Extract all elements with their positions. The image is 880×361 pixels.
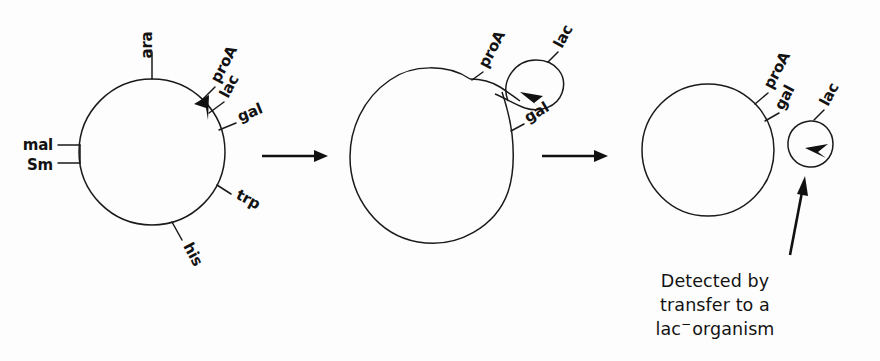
gene-label-mal: mal	[23, 136, 53, 154]
caption-line-1: Detected by	[661, 271, 769, 291]
gene-label-sm: Sm	[27, 156, 53, 174]
tick-gal-2	[511, 124, 524, 131]
tick-lac-3	[814, 110, 824, 120]
caption-minus-superscript: −	[681, 317, 691, 331]
tick-gal	[219, 123, 236, 130]
gene-label-ara: ara	[138, 31, 156, 58]
tick-gal-3	[765, 113, 779, 121]
tick-lac-2	[548, 52, 558, 62]
lac-episome-circle	[788, 121, 833, 167]
gene-label-lac-2: lac	[550, 22, 577, 51]
chromosome-strand-2	[470, 79, 520, 101]
caption-pointer-arrow	[790, 176, 808, 255]
caption-lac-prefix: lac	[655, 319, 681, 339]
panel-1-intact-chromosome: ara proA lac gal trp his mal	[23, 31, 265, 269]
figure-root: ara proA lac gal trp his mal	[0, 0, 880, 361]
caption-organism-suffix: organism	[692, 319, 774, 339]
episome-direction-arrow	[805, 144, 828, 158]
caption-line-2: transfer to a	[660, 295, 770, 315]
gene-label-proA-2: proA	[475, 27, 510, 71]
panel-2-looped-chromosome: proA lac gal	[350, 22, 577, 244]
tick-his	[172, 222, 182, 240]
caption-line-3: lac−organism	[655, 317, 774, 339]
gene-label-his: his	[179, 239, 206, 269]
gene-label-gal: gal	[235, 100, 265, 126]
arrow-stage-1-to-2	[262, 150, 328, 162]
tick-proA-3	[755, 93, 768, 104]
gene-label-trp: trp	[233, 186, 264, 214]
tick-lac	[209, 102, 224, 113]
gene-label-gal-2: gal	[521, 98, 552, 126]
arrow-stage-2-to-3	[542, 150, 608, 162]
tick-trp	[217, 185, 231, 194]
chromosome-blob-2	[350, 68, 513, 243]
chromosome-circle-3	[642, 84, 774, 216]
panel-3-excised: proA gal lac	[642, 48, 843, 255]
detection-caption: Detected by transfer to a lac−organism	[655, 271, 774, 339]
gene-label-lac-3: lac	[816, 80, 843, 109]
gene-label-proA-3: proA	[760, 48, 795, 92]
diagram-canvas: ara proA lac gal trp his mal	[0, 0, 880, 361]
